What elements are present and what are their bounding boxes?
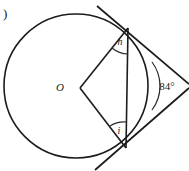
label-angle-84-degrees: 84° (159, 80, 174, 92)
radius-to-lower-tangent-point (80, 88, 126, 148)
tangent-line-lower (95, 88, 189, 170)
label-angle-i: i (118, 125, 121, 136)
chord-between-tangent-points (126, 28, 128, 148)
geometry-figure-svg: O h i 84° ) (0, 0, 189, 171)
label-angle-h: h (118, 36, 123, 47)
label-part-marker: ) (3, 6, 7, 21)
geometry-figure-container: O h i 84° ) (0, 0, 189, 171)
label-centre-O: O (56, 81, 64, 93)
tangent-line-upper (97, 6, 189, 84)
angle-arc-h (112, 48, 128, 54)
